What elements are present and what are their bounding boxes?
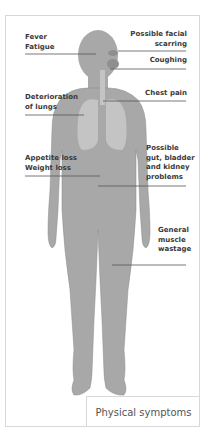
label-deterioration-lungs: Deterioration of lungs [25,93,78,112]
label-muscle-wastage: General muscle wastage [158,226,191,255]
label-chest-pain: Chest pain [145,89,187,99]
human-body-figure [0,0,211,444]
label-coughing: Coughing [150,56,187,66]
label-gut-bladder-kidney: Possible gut, bladder and kidney problem… [146,144,195,182]
label-fever-fatigue: Fever Fatigue [25,33,55,52]
label-facial-scarring: Possible facial scarring [130,30,187,49]
diagram-caption: Physical symptoms [86,396,200,427]
label-appetite-weight-loss: Appetite loss Weight loss [25,154,77,173]
